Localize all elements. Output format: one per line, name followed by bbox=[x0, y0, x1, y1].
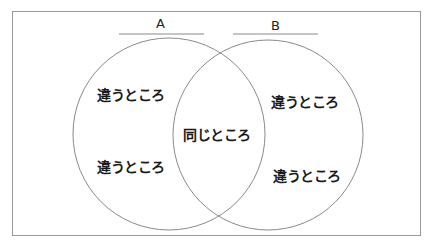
set-a-region-label: 違うところ bbox=[97, 159, 165, 175]
set-b-title: B bbox=[271, 19, 280, 33]
set-a-title: A bbox=[156, 17, 165, 31]
set-b-region-label: 違うところ bbox=[273, 168, 341, 184]
venn-diagram bbox=[0, 0, 433, 249]
set-a-region-label: 違うところ bbox=[97, 87, 165, 103]
set-b-region-label: 違うところ bbox=[271, 94, 339, 110]
intersection-label: 同じところ bbox=[183, 127, 251, 143]
